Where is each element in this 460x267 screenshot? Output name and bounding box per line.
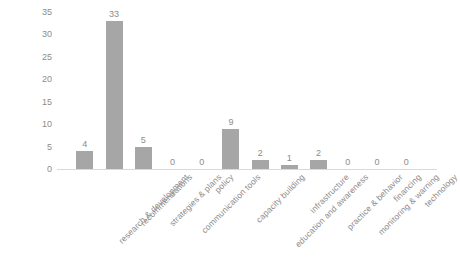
y-axis-tick-label: 5 <box>18 142 52 152</box>
bar-value-label: 0 <box>182 157 222 167</box>
bar-slot: 33 <box>106 12 123 169</box>
bar[interactable] <box>106 21 123 169</box>
bar[interactable] <box>76 151 93 169</box>
y-axis-tick-label: 25 <box>18 52 52 62</box>
bar-slot: 5 <box>135 12 152 169</box>
bar-value-label: 0 <box>386 157 426 167</box>
bar-value-label: 5 <box>123 135 163 145</box>
bar-slot: 2 <box>252 12 269 169</box>
x-axis-line <box>57 169 437 170</box>
bar-slot: 0 <box>398 12 415 169</box>
x-axis-category-label: recommendations <box>138 172 194 228</box>
x-axis-labels: research & developmentrecommendationsstr… <box>0 172 442 267</box>
y-axis-tick-label: 10 <box>18 119 52 129</box>
x-axis-category-label: capacity building <box>254 172 307 225</box>
bar[interactable] <box>222 129 239 169</box>
bar-value-label: 33 <box>94 9 134 19</box>
bar-value-label: 9 <box>211 117 251 127</box>
bar-slot: 1 <box>281 12 298 169</box>
y-axis-tick-label: 15 <box>18 97 52 107</box>
bar-slot: 0 <box>369 12 386 169</box>
bar-slot: 0 <box>164 12 181 169</box>
bar[interactable] <box>252 160 269 169</box>
y-axis-tick-label: 30 <box>18 29 52 39</box>
bar-slot: 2 <box>310 12 327 169</box>
y-axis-tick-label: 20 <box>18 74 52 84</box>
y-axis-tick-label: 35 <box>18 7 52 17</box>
chart-title-cropped <box>86 0 226 1</box>
bar[interactable] <box>135 147 152 169</box>
bar[interactable] <box>281 165 298 169</box>
plot-area: 4335009212000 <box>57 12 437 169</box>
bar-value-label: 4 <box>65 139 105 149</box>
bar-slot: 9 <box>222 12 239 169</box>
bar-slot: 0 <box>339 12 356 169</box>
y-axis: 05101520253035 <box>18 0 52 180</box>
bar-slot: 0 <box>193 12 210 169</box>
bar[interactable] <box>310 160 327 169</box>
bar-slot: 4 <box>76 12 93 169</box>
